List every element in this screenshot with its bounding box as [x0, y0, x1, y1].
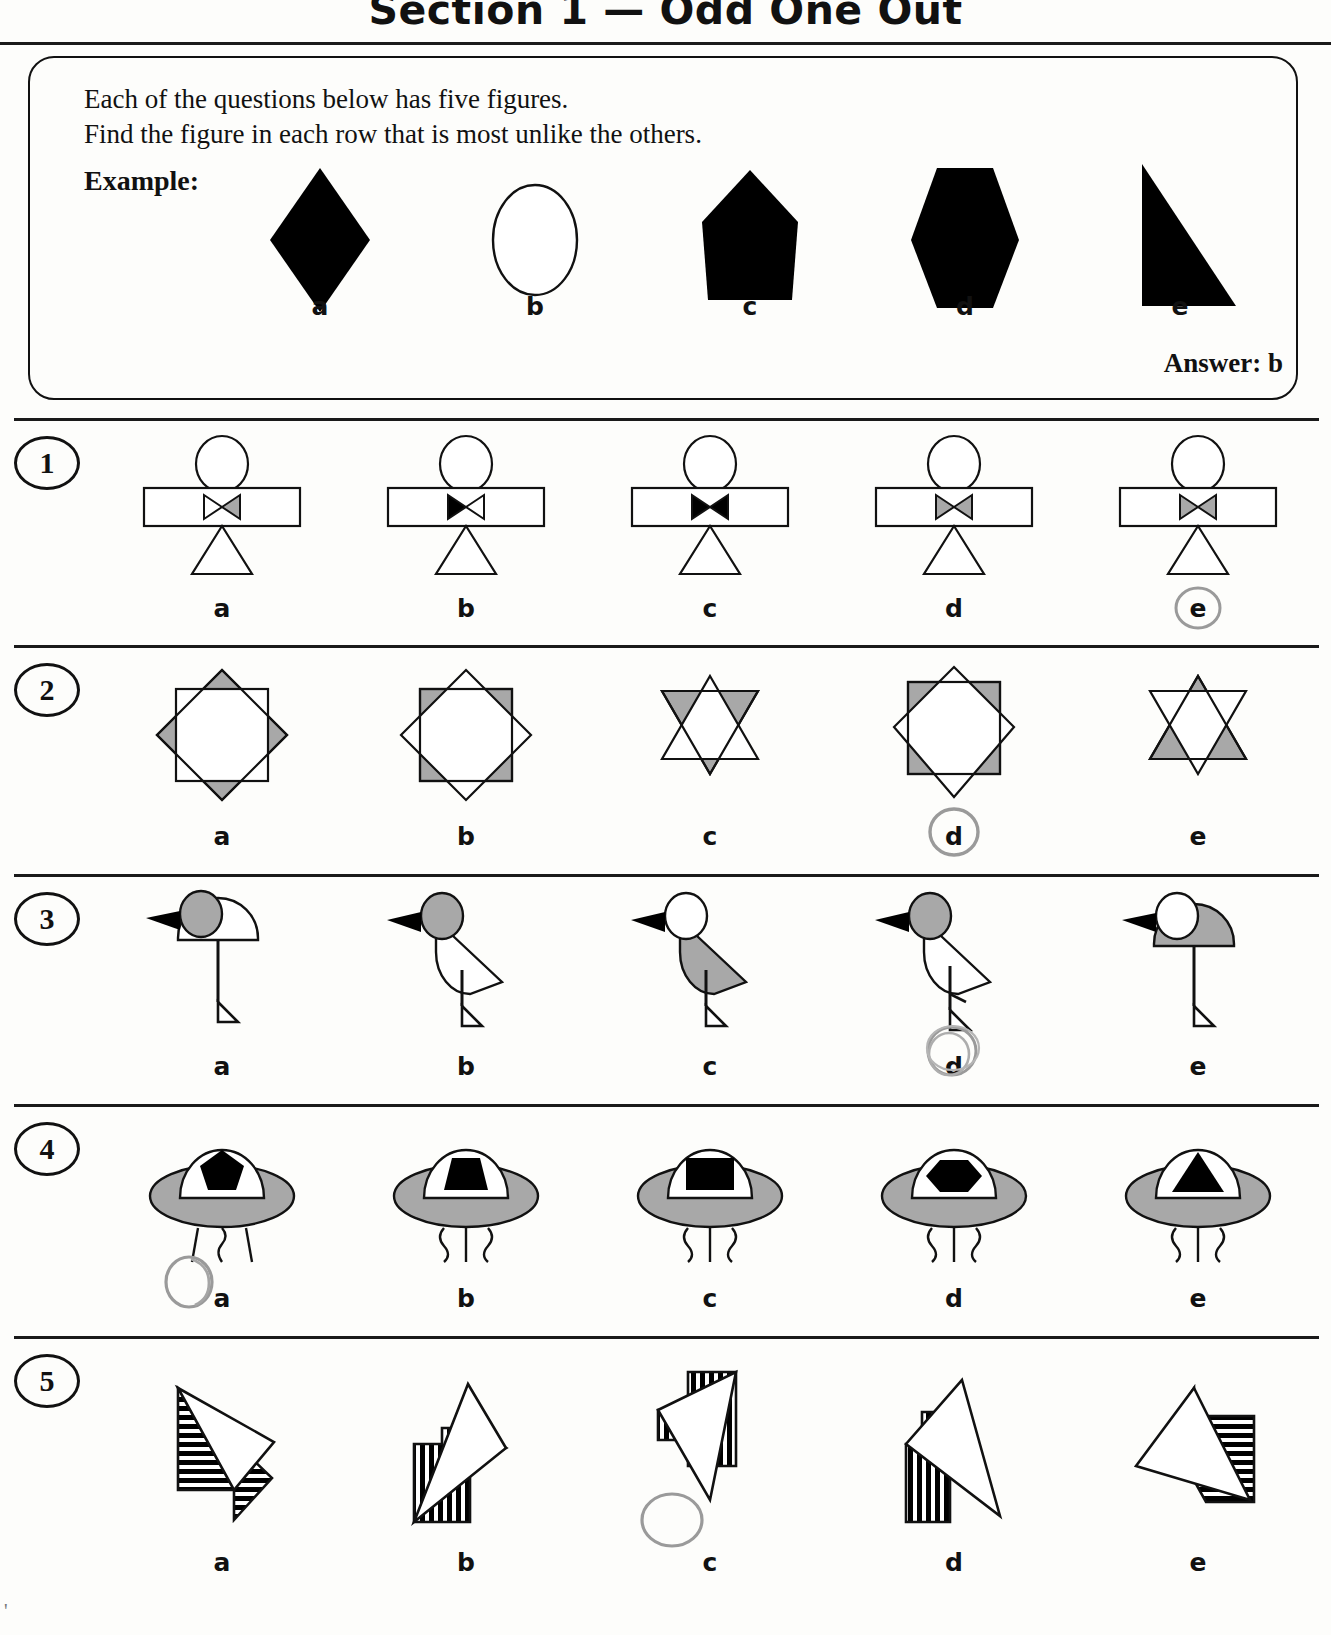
- q1-figure-a[interactable]: [100, 434, 344, 584]
- q4-figure-b[interactable]: [344, 1120, 588, 1290]
- q3-label-e: e: [1076, 1052, 1320, 1081]
- q5-figure-b[interactable]: [344, 1370, 588, 1530]
- q1-label-a: a: [100, 594, 344, 623]
- q1-figure-c[interactable]: [588, 434, 832, 584]
- q4-figure-a[interactable]: [100, 1120, 344, 1290]
- instruction-line-2: Find the figure in each row that is most…: [84, 118, 702, 152]
- question-4-labels: a b c d e: [100, 1284, 1320, 1318]
- q2-label-b: b: [344, 822, 588, 851]
- q4-label-b: b: [344, 1284, 588, 1313]
- q5-label-e: e: [1076, 1548, 1320, 1577]
- question-number-2: 2: [14, 663, 80, 717]
- q1-label-b: b: [344, 594, 588, 623]
- q1-figure-e[interactable]: [1076, 434, 1320, 584]
- question-3-figures: [100, 890, 1320, 1050]
- page-header: Section 1 — Odd One Out: [0, 0, 1331, 34]
- q2-label-a: a: [100, 822, 344, 851]
- q1-label-e: e: [1076, 594, 1320, 623]
- q4-figure-e[interactable]: [1076, 1120, 1320, 1290]
- question-2-figures: [100, 660, 1320, 810]
- question-number-3: 3: [14, 892, 80, 946]
- q1-figure-d[interactable]: [832, 434, 1076, 584]
- title-divider: [0, 42, 1331, 45]
- question-1-figures: [100, 434, 1320, 584]
- divider-above-q2: [14, 645, 1319, 648]
- q5-label-d: d: [832, 1548, 1076, 1577]
- divider-above-q4: [14, 1104, 1319, 1107]
- worksheet-page: Section 1 — Odd One Out Each of the ques…: [0, 0, 1331, 1635]
- q5-label-c: c: [588, 1548, 832, 1577]
- q3-figure-a[interactable]: [100, 890, 344, 1050]
- question-5-figures: [100, 1370, 1320, 1530]
- q3-label-d: d: [832, 1052, 1076, 1081]
- q2-label-e: e: [1076, 822, 1320, 851]
- q2-figure-b[interactable]: [344, 660, 588, 810]
- question-4-figures: [100, 1120, 1320, 1290]
- example-letter-d: d: [865, 292, 1065, 321]
- q1-label-d: d: [832, 594, 1076, 623]
- q5-label-a: a: [100, 1548, 344, 1577]
- q2-label-c: c: [588, 822, 832, 851]
- divider-above-q1: [14, 418, 1319, 421]
- example-letter-a: a: [220, 292, 420, 321]
- divider-above-q5: [14, 1336, 1319, 1339]
- example-letter-b: b: [435, 292, 635, 321]
- page-title: Section 1 — Odd One Out: [0, 0, 1331, 34]
- question-number-5: 5: [14, 1354, 80, 1408]
- q2-figure-e[interactable]: [1076, 660, 1320, 810]
- q3-label-a: a: [100, 1052, 344, 1081]
- q3-label-b: b: [344, 1052, 588, 1081]
- q3-label-c: c: [588, 1052, 832, 1081]
- q4-figure-c[interactable]: [588, 1120, 832, 1290]
- q5-figure-e[interactable]: [1076, 1370, 1320, 1530]
- q4-label-a: a: [100, 1284, 344, 1313]
- q1-figure-b[interactable]: [344, 434, 588, 584]
- divider-above-q3: [14, 874, 1319, 877]
- question-2-labels: a b c d e: [100, 822, 1320, 856]
- page-corner-mark: ': [4, 1600, 8, 1623]
- q5-figure-a[interactable]: [100, 1370, 344, 1530]
- q2-figure-a[interactable]: [100, 660, 344, 810]
- q4-label-d: d: [832, 1284, 1076, 1313]
- q5-label-b: b: [344, 1548, 588, 1577]
- q3-figure-c[interactable]: [588, 890, 832, 1050]
- question-1-labels: a b c d e: [100, 594, 1320, 628]
- q2-label-d: d: [832, 822, 1076, 851]
- example-letter-row: a b c d e: [220, 292, 1290, 328]
- q5-figure-d[interactable]: [832, 1370, 1076, 1530]
- q4-label-c: c: [588, 1284, 832, 1313]
- question-number-1: 1: [14, 436, 80, 490]
- example-letter-e: e: [1080, 292, 1280, 321]
- q1-label-c: c: [588, 594, 832, 623]
- example-answer: Answer: b: [1164, 348, 1283, 379]
- q5-figure-c[interactable]: [588, 1370, 832, 1530]
- example-letter-c: c: [650, 292, 850, 321]
- question-5-labels: a b c d e: [100, 1548, 1320, 1582]
- q4-figure-d[interactable]: [832, 1120, 1076, 1290]
- question-3-labels: a b c d e: [100, 1052, 1320, 1086]
- q3-figure-d[interactable]: [832, 890, 1076, 1050]
- example-label: Example:: [84, 165, 199, 197]
- q3-figure-b[interactable]: [344, 890, 588, 1050]
- q2-figure-d[interactable]: [832, 660, 1076, 810]
- instruction-line-1: Each of the questions below has five fig…: [84, 83, 568, 117]
- q3-figure-e[interactable]: [1076, 890, 1320, 1050]
- q4-label-e: e: [1076, 1284, 1320, 1313]
- question-number-4: 4: [14, 1122, 80, 1176]
- q2-figure-c[interactable]: [588, 660, 832, 810]
